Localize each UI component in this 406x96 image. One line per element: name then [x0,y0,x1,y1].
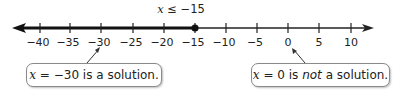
callout-variable: x [29,68,36,82]
tick-label: −15 [181,36,204,49]
callout-variable: x [253,68,260,82]
tick-label: 10 [344,36,358,49]
closed-circle-icon [191,24,198,31]
callout-solution: x = −30 is a solution. [26,63,162,87]
inequality-relation: ≤ −15 [164,2,205,16]
tick-label: −5 [247,36,263,49]
callout-not-solution: x = 0 is not a solution. [251,63,390,87]
number-line-diagram: x ≤ −15 −40 −35 −30 −25 −20 −15 −10 −5 0… [0,0,406,96]
inequality-label: x ≤ −15 [157,2,205,16]
tick-label: −40 [26,36,49,49]
callout-emphasis: not [302,68,322,82]
tick-label: −10 [212,36,235,49]
callout-text: = −30 is a solution. [36,68,159,82]
tick-label: −25 [119,36,142,49]
tick-label: 0 [285,36,292,49]
tick-label: −35 [56,36,79,49]
tick-label: −20 [150,36,173,49]
callout-text: = 0 is [260,68,303,82]
callout-text-suffix: a solution. [322,68,388,82]
tick-label: 5 [316,36,323,49]
tick-label: −30 [87,36,110,49]
